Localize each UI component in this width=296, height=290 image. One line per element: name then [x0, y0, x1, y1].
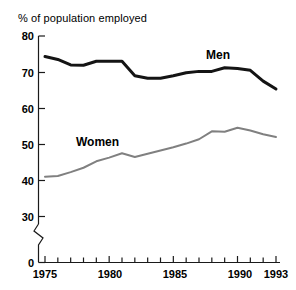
x-tick-marks — [45, 256, 276, 263]
series-label-women: Women — [76, 135, 119, 149]
y-tick-label: 70 — [22, 67, 34, 79]
y-axis-break-icon — [34, 224, 43, 262]
x-tick-label: 1993 — [264, 268, 288, 280]
series-label-men: Men — [206, 48, 230, 62]
y-tick-label: 0 — [28, 257, 34, 269]
chart-plot-area: 80 70 60 50 40 30 0 1975 1980 1985 1990 … — [0, 0, 296, 290]
y-tick-labels: 80 70 60 50 40 30 0 — [22, 30, 34, 269]
series-line-men — [45, 57, 276, 89]
y-tick-marks — [39, 36, 46, 263]
y-tick-label: 50 — [22, 139, 34, 151]
x-tick-labels: 1975 1980 1985 1990 1993 — [33, 268, 288, 280]
x-tick-label: 1985 — [163, 268, 187, 280]
y-tick-label: 80 — [22, 30, 34, 42]
x-tick-label: 1975 — [33, 268, 57, 280]
y-tick-label: 30 — [22, 211, 34, 223]
chart-container: % of population employed 80 70 60 50 40 … — [0, 0, 296, 290]
y-tick-label: 40 — [22, 175, 34, 187]
y-tick-label: 60 — [22, 103, 34, 115]
x-tick-label: 1980 — [98, 268, 122, 280]
x-tick-label: 1990 — [228, 268, 252, 280]
